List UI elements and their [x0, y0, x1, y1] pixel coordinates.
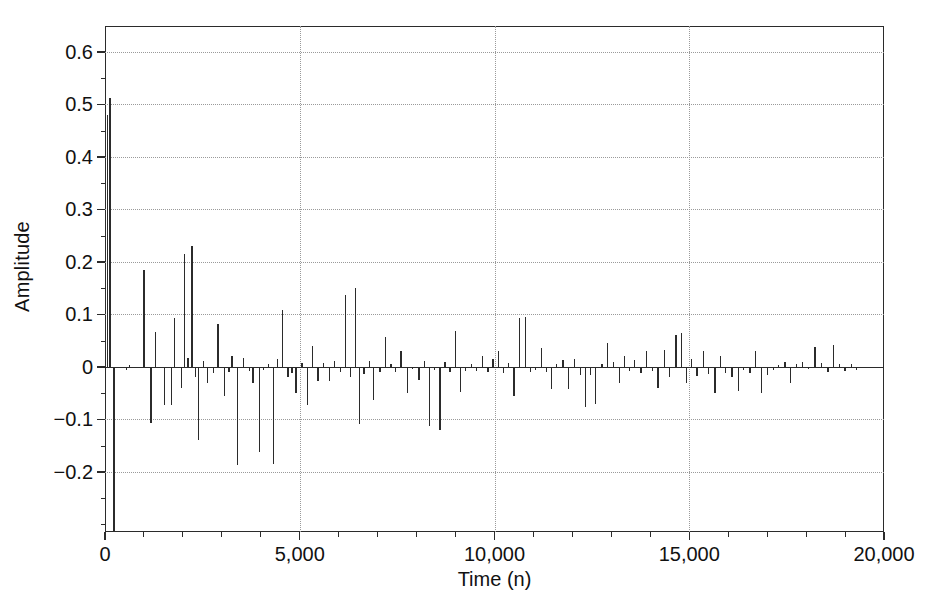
y-tick-label: 0.6: [65, 40, 93, 63]
y-tick-major: [97, 471, 105, 472]
stem-bar: [790, 367, 791, 383]
stem-bar: [171, 367, 172, 405]
x-tick-minor: [533, 532, 534, 537]
stem-bar: [307, 367, 308, 405]
stem-bar: [749, 367, 750, 373]
stem-bar: [249, 367, 250, 371]
stem-bar: [640, 367, 641, 373]
y-tick-minor: [101, 393, 106, 394]
x-tick-minor: [416, 532, 417, 537]
stem-bar: [714, 367, 715, 393]
stem-bar: [287, 367, 288, 378]
stem-bar: [851, 364, 852, 367]
x-tick-major: [494, 532, 495, 540]
stem-bar: [725, 367, 726, 373]
stem-bar: [143, 270, 144, 367]
stem-bar: [607, 343, 608, 367]
stem-bar: [444, 362, 445, 367]
x-tick-minor: [767, 532, 768, 537]
stem-bar: [590, 367, 591, 375]
stem-bar: [273, 367, 274, 464]
stem-bar: [743, 367, 744, 370]
stem-bar: [291, 367, 292, 373]
stem-bar: [207, 367, 208, 383]
y-tick-major: [97, 419, 105, 420]
stem-bar: [778, 365, 779, 367]
stem-bar: [503, 367, 504, 373]
y-tick-label: 0.1: [65, 303, 93, 326]
stem-bar: [407, 367, 408, 393]
y-tick-minor: [101, 446, 106, 447]
stem-bar: [773, 367, 774, 370]
y-tick-minor: [101, 183, 106, 184]
stem-bar: [359, 367, 360, 424]
stem-bar: [213, 367, 214, 373]
stem-bar: [556, 364, 557, 367]
stem-bar: [562, 360, 563, 367]
stem-bar: [856, 367, 857, 370]
stem-bar: [455, 331, 456, 367]
stem-bar: [686, 367, 687, 383]
stem-bar: [181, 367, 182, 388]
y-tick-label: 0.2: [65, 250, 93, 273]
stem-bar: [217, 324, 218, 367]
y-tick-minor: [101, 498, 106, 499]
x-tick-minor: [182, 532, 183, 537]
stem-bar: [429, 367, 430, 426]
stem-bar: [568, 367, 569, 389]
stem-bar: [317, 367, 318, 381]
stem-bar: [301, 363, 302, 367]
x-tick-label: 0: [99, 543, 110, 566]
y-tick-minor: [101, 131, 106, 132]
x-tick-minor: [572, 532, 573, 537]
stem-bar: [476, 367, 477, 371]
stem-bar: [395, 367, 396, 372]
stem-bar: [268, 364, 269, 367]
stem-bar: [355, 288, 356, 367]
x-tick-major: [689, 532, 690, 540]
x-tick-minor: [728, 532, 729, 537]
stem-bar: [844, 367, 845, 371]
y-tick-major: [97, 209, 105, 210]
stem-bar: [541, 348, 542, 367]
stem-bar: [796, 364, 797, 367]
y-tick-major: [97, 366, 105, 367]
stem-bar: [369, 361, 370, 367]
stem-bar: [243, 358, 244, 367]
stem-bar: [708, 367, 709, 374]
y-tick-minor: [101, 288, 106, 289]
stem-bar: [400, 351, 401, 367]
stem-bar: [761, 367, 762, 393]
stem-bar: [434, 367, 435, 370]
stem-bar: [681, 333, 682, 367]
stem-bar: [107, 115, 108, 367]
stem-bar: [295, 367, 296, 393]
x-tick-minor: [143, 532, 144, 537]
stem-bar: [323, 363, 324, 367]
stem-bar: [184, 254, 185, 367]
stem-bar: [390, 364, 391, 367]
stem-bar: [340, 367, 341, 372]
stem-bar: [228, 367, 229, 372]
chart-figure: Amplitude −0.2−0.100.10.20.30.40.50.6 05…: [0, 0, 935, 611]
stem-bar: [312, 346, 313, 367]
stem-bar: [696, 367, 697, 376]
stem-bar: [619, 367, 620, 383]
stem-bar: [471, 364, 472, 367]
x-tick-minor: [650, 532, 651, 537]
stem-bar: [629, 367, 630, 371]
stem-bar: [350, 367, 351, 378]
x-tick-minor: [455, 532, 456, 537]
stem-bar: [231, 356, 232, 367]
stem-bar: [150, 367, 151, 423]
stem-bar: [373, 367, 374, 400]
stem-bar: [808, 367, 809, 369]
stem-bar: [703, 351, 704, 367]
x-tick-minor: [221, 532, 222, 537]
stem-bar: [839, 364, 840, 367]
stem-bar: [492, 359, 493, 367]
stem-bar: [259, 367, 260, 452]
stem-bar: [669, 367, 670, 378]
stem-bar: [195, 367, 196, 378]
x-tick-minor: [377, 532, 378, 537]
